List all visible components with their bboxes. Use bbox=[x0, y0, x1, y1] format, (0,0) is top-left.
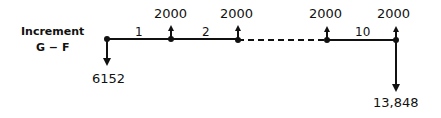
inflow-2: 2000 bbox=[220, 7, 253, 21]
outflow-start: 6152 bbox=[92, 72, 125, 86]
inflow-10: 2000 bbox=[377, 7, 410, 21]
period-10: 10 bbox=[355, 25, 370, 39]
period-2: 2 bbox=[202, 25, 210, 39]
inflow-1: 2000 bbox=[154, 7, 187, 21]
period-1: 1 bbox=[135, 25, 143, 39]
outflow-end: 13,848 bbox=[373, 96, 419, 110]
inflow-9: 2000 bbox=[309, 7, 342, 21]
